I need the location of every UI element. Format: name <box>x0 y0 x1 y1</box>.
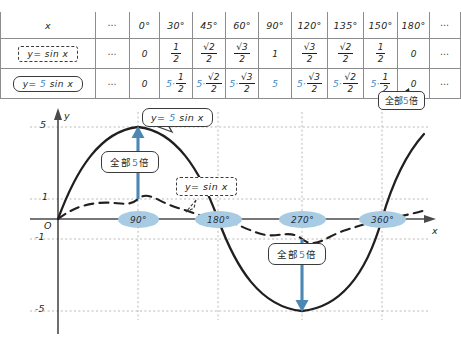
x-badge-270[interactable]: 270° <box>279 211 326 228</box>
y-axis-arrow-icon <box>54 108 62 120</box>
cell-sin-2: 12 <box>160 39 193 69</box>
x-badge-90[interactable]: 90° <box>118 211 159 228</box>
sin-label-pill: y= sin x <box>18 46 79 62</box>
cell-5sin-4: 5·√32 <box>226 69 259 99</box>
row-label-x: x <box>1 12 96 39</box>
cell-x-6: 120° <box>292 12 328 39</box>
cell-x-0: ⋯ <box>96 12 130 39</box>
cell-x-9: 180° <box>398 12 430 39</box>
x-axis-arrow-icon <box>424 215 436 223</box>
cell-sin-0: ⋯ <box>96 39 130 69</box>
row-label-5sin: y= 5 sin x <box>1 69 96 99</box>
origin-label: O <box>44 220 51 231</box>
cell-sin-7: √22 <box>328 39 364 69</box>
y-tick-1: 1 <box>42 191 48 202</box>
cell-5sin-6: 5·√32 <box>292 69 328 99</box>
table-row-sin: y= sin x ⋯ 0 12 √22 √32 1 √32 √22 12 0 ⋯ <box>1 39 461 69</box>
cell-5sin-10: ⋯ <box>430 69 461 99</box>
cell-sin-3: √22 <box>193 39 226 69</box>
cell-sin-1: 0 <box>130 39 160 69</box>
cell-5sin-3: 5·√22 <box>193 69 226 99</box>
callout-curve-5sin: y= 5 sin x <box>142 108 213 127</box>
cell-x-1: 0° <box>130 12 160 39</box>
cell-5sin-7: 5·√22 <box>328 69 364 99</box>
cell-x-5: 90° <box>259 12 292 39</box>
sine-graph: 5 1 -1 -5 O y x 90° 180° 270° 360° y= 5 … <box>0 104 450 344</box>
cell-sin-4: √32 <box>226 39 259 69</box>
y-tick-neg5: -5 <box>35 303 44 314</box>
5sin-label-pill: y= 5 sin x <box>13 76 83 92</box>
cell-x-2: 30° <box>160 12 193 39</box>
y-axis-label: y <box>64 110 70 121</box>
note-bottom-5x: 全部5倍 <box>268 243 326 265</box>
cell-sin-8: 12 <box>364 39 398 69</box>
cell-sin-10: ⋯ <box>430 39 461 69</box>
y-tick-neg1: -1 <box>35 231 44 242</box>
row-label-sin: y= sin x <box>1 39 96 69</box>
x-badge-360[interactable]: 360° <box>359 211 406 228</box>
note-top-5x: 全部5倍 <box>101 151 159 173</box>
x-label: x <box>45 20 51 31</box>
cell-5sin-2: 5·12 <box>160 69 193 99</box>
x-axis-label: x <box>432 225 438 236</box>
cell-sin-5: 1 <box>259 39 292 69</box>
cell-x-10: ⋯ <box>430 12 461 39</box>
cell-5sin-0: ⋯ <box>96 69 130 99</box>
cell-x-3: 45° <box>193 12 226 39</box>
cell-x-4: 60° <box>226 12 259 39</box>
table-row-x: x ⋯ 0° 30° 45° 60° 90° 120° 135° 150° 18… <box>1 12 461 39</box>
cell-sin-6: √32 <box>292 39 328 69</box>
x-badge-180[interactable]: 180° <box>195 211 242 228</box>
cell-sin-9: 0 <box>398 39 430 69</box>
cell-5sin-5: 5 <box>259 69 292 99</box>
coef-5: 5 <box>40 79 46 89</box>
cell-x-8: 150° <box>364 12 398 39</box>
y-tick-5: 5 <box>40 119 46 130</box>
callout-curve-sin: y= sin x <box>176 177 237 196</box>
cell-5sin-1: 0 <box>130 69 160 99</box>
cell-x-7: 135° <box>328 12 364 39</box>
